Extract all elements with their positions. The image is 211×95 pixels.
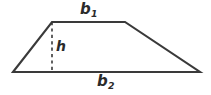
bottom-base-subscript: 2	[108, 80, 114, 91]
trapezoid-figure: b1 b2 h	[0, 0, 211, 95]
bottom-base-label: b2	[97, 74, 114, 89]
trapezoid-shape	[13, 22, 200, 72]
bottom-base-letter: b	[97, 72, 108, 90]
height-letter: h	[56, 38, 66, 54]
top-base-label: b1	[80, 2, 97, 17]
height-label: h	[56, 39, 66, 53]
top-base-letter: b	[80, 0, 91, 18]
top-base-subscript: 1	[91, 8, 97, 19]
